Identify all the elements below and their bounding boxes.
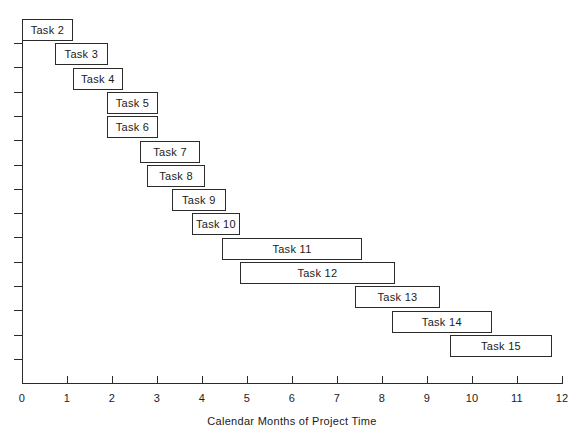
task-bar-label: Task 12 xyxy=(297,267,337,279)
task-bar-label: Task 15 xyxy=(481,340,521,352)
task-bar-label: Task 5 xyxy=(116,97,150,109)
y-axis-tick xyxy=(14,92,22,93)
task-bar[interactable]: Task 11 xyxy=(222,238,362,260)
task-bar[interactable]: Task 6 xyxy=(107,116,158,138)
x-axis-tick xyxy=(472,376,473,383)
y-axis-tick xyxy=(14,43,22,44)
x-axis-tick xyxy=(157,376,158,383)
x-axis-tick xyxy=(202,376,203,383)
task-bar[interactable]: Task 15 xyxy=(450,335,552,357)
x-axis-tick-label: 8 xyxy=(367,392,397,405)
y-axis-line xyxy=(22,19,23,384)
task-bar[interactable]: Task 14 xyxy=(392,311,492,333)
x-axis-tick-label: 2 xyxy=(97,392,127,405)
x-axis-tick-label: 12 xyxy=(547,392,577,405)
x-axis-tick-label: 10 xyxy=(457,392,487,405)
x-axis-tick xyxy=(427,376,428,383)
x-axis-tick-label: 9 xyxy=(412,392,442,405)
x-axis-tick xyxy=(292,376,293,383)
task-bar-label: Task 11 xyxy=(272,243,311,255)
y-axis-tick xyxy=(14,165,22,166)
task-bar-label: Task 6 xyxy=(116,121,150,133)
x-axis-tick xyxy=(112,376,113,383)
task-bar[interactable]: Task 4 xyxy=(73,68,123,90)
y-axis-tick xyxy=(14,237,22,238)
task-bar-label: Task 7 xyxy=(153,146,187,158)
x-axis-tick xyxy=(337,376,338,383)
task-bar[interactable]: Task 9 xyxy=(172,189,226,211)
task-bar-label: Task 8 xyxy=(159,170,193,182)
task-bar[interactable]: Task 13 xyxy=(355,286,440,308)
y-axis-tick xyxy=(14,262,22,263)
task-bar[interactable]: Task 7 xyxy=(140,141,200,163)
task-bar[interactable]: Task 2 xyxy=(22,19,73,41)
x-axis-tick-label: 0 xyxy=(7,392,37,405)
x-axis-line xyxy=(22,383,563,384)
task-bar-label: Task 9 xyxy=(182,194,216,206)
x-axis-title: Calendar Months of Project Time xyxy=(0,415,584,427)
task-bar[interactable]: Task 5 xyxy=(107,92,158,114)
y-axis-tick xyxy=(14,213,22,214)
x-axis-tick xyxy=(22,376,23,383)
y-axis-tick xyxy=(14,359,22,360)
x-axis-tick-label: 7 xyxy=(322,392,352,405)
task-bar-label: Task 14 xyxy=(422,316,462,328)
y-axis-tick xyxy=(14,140,22,141)
x-axis-tick xyxy=(67,376,68,383)
task-bar-label: Task 13 xyxy=(378,291,418,303)
task-bar[interactable]: Task 10 xyxy=(192,213,240,235)
task-bar[interactable]: Task 3 xyxy=(55,43,108,65)
gantt-chart: 0123456789101112 Task 2Task 3Task 4Task … xyxy=(0,0,584,439)
y-axis-tick xyxy=(14,67,22,68)
task-bar[interactable]: Task 12 xyxy=(240,262,395,284)
x-axis-tick xyxy=(382,376,383,383)
x-axis-tick xyxy=(247,376,248,383)
x-axis-tick-label: 6 xyxy=(277,392,307,405)
task-bar-label: Task 10 xyxy=(196,218,236,230)
x-axis-tick xyxy=(517,376,518,383)
y-axis-tick xyxy=(14,189,22,190)
x-axis-tick-label: 3 xyxy=(142,392,172,405)
task-bar[interactable]: Task 8 xyxy=(147,165,205,187)
x-axis-tick xyxy=(562,376,563,383)
x-axis-tick-label: 5 xyxy=(232,392,262,405)
y-axis-tick xyxy=(14,310,22,311)
y-axis-tick xyxy=(14,335,22,336)
y-axis-tick xyxy=(14,286,22,287)
task-bar-label: Task 2 xyxy=(31,24,65,36)
x-axis-tick-label: 1 xyxy=(52,392,82,405)
task-bar-label: Task 4 xyxy=(81,73,115,85)
task-bar-label: Task 3 xyxy=(65,48,99,60)
x-axis-tick-label: 4 xyxy=(187,392,217,405)
y-axis-tick xyxy=(14,116,22,117)
x-axis-tick-label: 11 xyxy=(502,392,532,405)
